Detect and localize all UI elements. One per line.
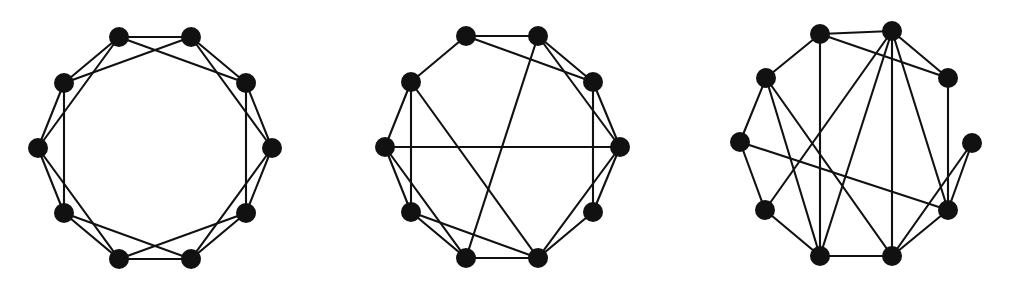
graph-node [262,138,282,158]
graph-node [236,203,256,223]
graph-node [375,137,395,157]
graph-node [54,73,74,93]
network-diagram-canvas [0,0,1010,288]
small-world-network-figure [0,0,1010,288]
graph-node [181,249,201,269]
graph-node [756,68,776,88]
graph-node [528,248,548,268]
graph-node [28,138,48,158]
graph-node [401,72,421,92]
graph-node [109,27,129,47]
graph-node [456,26,476,46]
graph-node [962,133,982,153]
graph-node [401,202,421,222]
graph-node [456,248,476,268]
graph-node [583,202,603,222]
graph-node [528,26,548,46]
graph-node [54,203,74,223]
graph-node [755,200,775,220]
graph-node [730,132,750,152]
graph-node [583,72,603,92]
graph-node [810,24,830,44]
graph-node [109,249,129,269]
graph-node [938,68,958,88]
graph-node [610,137,630,157]
graph-node [882,246,902,266]
graph-node [181,27,201,47]
graph-node [938,200,958,220]
graph-node [882,21,902,41]
graph-node [236,73,256,93]
graph-node [810,246,830,266]
